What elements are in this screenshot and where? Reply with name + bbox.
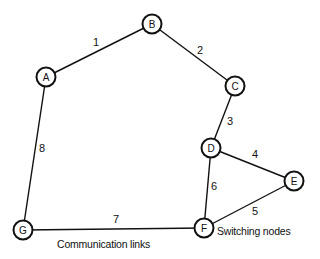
node-a: A	[37, 68, 56, 87]
link-e-f	[204, 181, 294, 228]
node-f: F	[195, 219, 214, 238]
link-label-6: 6	[211, 180, 217, 192]
communication-links-caption: Communication links	[57, 238, 150, 250]
node-label: B	[149, 19, 156, 30]
node-e: E	[285, 172, 304, 191]
link-label-1: 1	[93, 36, 99, 48]
node-d: D	[202, 139, 221, 158]
network-diagram: 12345678 ABCDEFG Communication links Swi…	[0, 0, 320, 259]
nodes-layer: ABCDEFG	[14, 15, 304, 240]
link-a-b	[46, 24, 152, 77]
network-graph: 12345678 ABCDEFG	[0, 0, 320, 259]
link-label-3: 3	[227, 115, 233, 127]
node-label: G	[19, 225, 27, 236]
link-b-c	[152, 24, 235, 86]
node-label: A	[43, 72, 50, 83]
node-g: G	[14, 221, 33, 240]
node-label: E	[291, 176, 298, 187]
node-label: D	[207, 143, 214, 154]
node-c: C	[226, 77, 245, 96]
link-label-7: 7	[113, 213, 119, 225]
link-label-5: 5	[252, 205, 258, 217]
switching-nodes-caption: Switching nodes	[217, 225, 290, 237]
link-d-f	[204, 148, 211, 228]
link-label-4: 4	[252, 148, 258, 160]
link-label-2: 2	[197, 44, 203, 56]
link-g-f	[23, 228, 204, 230]
links-layer	[23, 24, 294, 230]
node-label: C	[231, 81, 238, 92]
link-label-8: 8	[39, 142, 45, 154]
node-label: F	[201, 223, 207, 234]
node-b: B	[143, 15, 162, 34]
